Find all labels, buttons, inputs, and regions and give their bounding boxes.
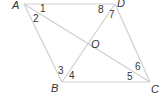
vertex-label-B: B [51,82,58,94]
angle-label-8: 8 [98,4,104,15]
angle-label-6: 6 [135,61,141,72]
angle-label-7: 7 [109,9,115,20]
vertex-label-A: A [11,0,19,11]
vertex-label-D: D [117,0,125,9]
angle-label-3: 3 [58,65,64,76]
angle-label-4: 4 [69,70,75,81]
angle-label-5: 5 [127,71,133,82]
vertex-label-C: C [151,83,159,95]
vertex-label-O: O [91,38,100,50]
angle-label-1: 1 [40,3,46,14]
angle-label-2: 2 [33,13,39,24]
parallelogram-figure: A D B C O 1 2 3 4 5 6 7 8 [0,0,165,101]
